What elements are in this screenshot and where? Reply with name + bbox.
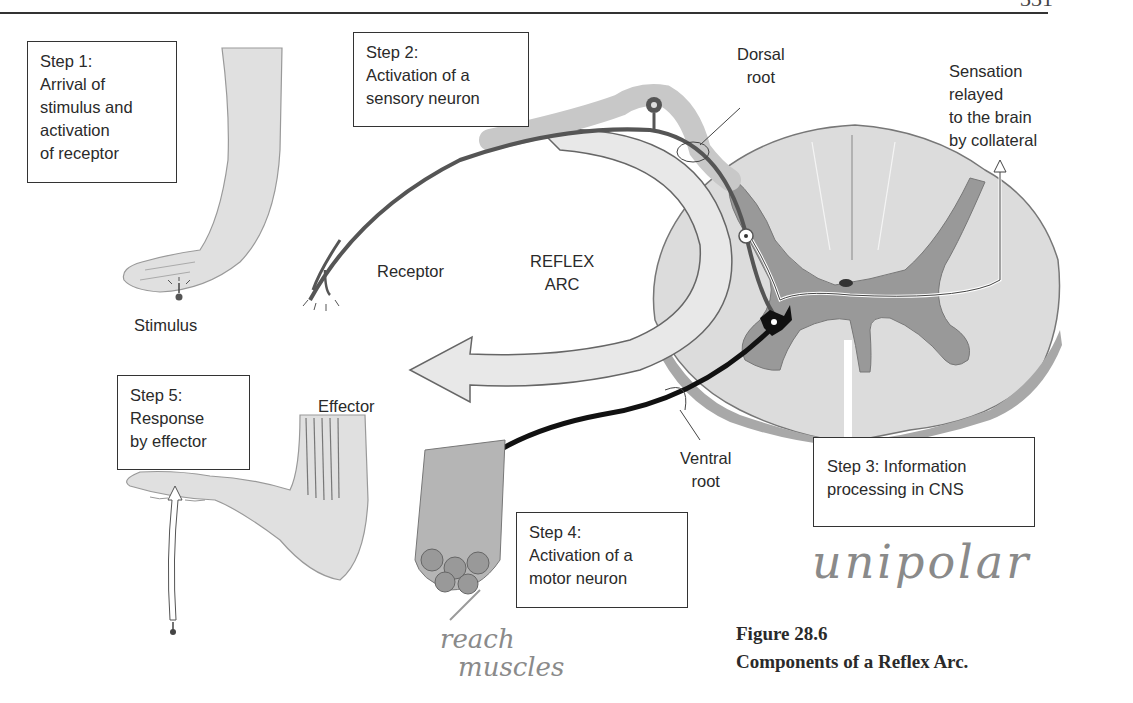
step2-title: Step 2: bbox=[366, 41, 516, 64]
sensation-label-line: Sensation bbox=[949, 60, 1037, 83]
step5-line: Response bbox=[130, 407, 237, 430]
step3-box: Step 3: Information processing in CNS bbox=[813, 437, 1035, 527]
step2-line: sensory neuron bbox=[366, 87, 516, 110]
step4-title: Step 4: bbox=[529, 521, 675, 544]
reflex-arc-label-line: ARC bbox=[530, 273, 594, 296]
handwritten-note-line: reach bbox=[440, 625, 564, 653]
reflex-arc-label: REFLEX ARC bbox=[530, 250, 594, 296]
step5-line: by effector bbox=[130, 430, 237, 453]
step4-box: Step 4: Activation of a motor neuron bbox=[516, 512, 688, 608]
step1-line: activation bbox=[40, 119, 164, 142]
step1-box: Step 1: Arrival of stimulus and activati… bbox=[27, 41, 177, 183]
ventral-root-label: Ventral root bbox=[680, 447, 731, 493]
dorsal-root-label-line: Dorsal bbox=[737, 43, 785, 66]
step4-line: motor neuron bbox=[529, 567, 675, 590]
effector-label: Effector bbox=[318, 395, 375, 418]
handwritten-note-reach-muscles: reach muscles bbox=[440, 625, 564, 681]
ventral-root-label-line: root bbox=[680, 470, 731, 493]
step1-title: Step 1: bbox=[40, 50, 164, 73]
step5-box: Step 5: Response by effector bbox=[117, 375, 250, 470]
sensation-label: Sensation relayed to the brain by collat… bbox=[949, 60, 1037, 152]
reflex-arc-label-line: REFLEX bbox=[530, 250, 594, 273]
dorsal-root-label: Dorsal root bbox=[737, 43, 785, 89]
figure-number: Figure 28.6 bbox=[736, 620, 968, 648]
step2-line: Activation of a bbox=[366, 64, 516, 87]
receptor-label: Receptor bbox=[377, 260, 444, 283]
step4-line: Activation of a bbox=[529, 544, 675, 567]
figure-caption: Figure 28.6 Components of a Reflex Arc. bbox=[736, 620, 968, 676]
handwritten-note-line: muscles bbox=[458, 653, 564, 681]
sensation-label-line: to the brain bbox=[949, 106, 1037, 129]
dorsal-root-label-line: root bbox=[737, 66, 785, 89]
figure-title: Components of a Reflex Arc. bbox=[736, 648, 968, 676]
step2-box: Step 2: Activation of a sensory neuron bbox=[353, 32, 529, 127]
sensation-label-line: by collateral bbox=[949, 129, 1037, 152]
handwritten-note-unipolar: unipolar bbox=[812, 535, 1031, 589]
step1-line: of receptor bbox=[40, 142, 164, 165]
step1-line: stimulus and bbox=[40, 96, 164, 119]
muscle-fascicle-illustration bbox=[415, 440, 505, 594]
stimulus-label: Stimulus bbox=[134, 314, 197, 337]
step5-title: Step 5: bbox=[130, 384, 237, 407]
step3-line: Step 3: Information bbox=[827, 455, 1021, 478]
step3-line: processing in CNS bbox=[827, 478, 1021, 501]
step1-line: Arrival of bbox=[40, 73, 164, 96]
sensation-label-line: relayed bbox=[949, 83, 1037, 106]
ventral-root-label-line: Ventral bbox=[680, 447, 731, 470]
